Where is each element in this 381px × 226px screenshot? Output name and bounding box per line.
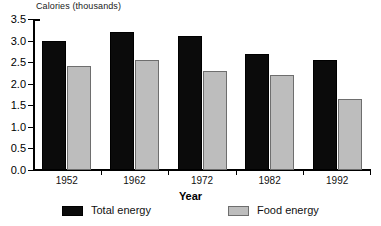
bar-food-energy-1952	[67, 66, 91, 170]
x-axis-label-1992: 1992	[326, 176, 348, 186]
bar-group	[178, 19, 227, 170]
bar-total-energy-1972	[178, 36, 202, 170]
y-axis-tick-mark	[28, 127, 34, 128]
bar-food-energy-1972	[203, 71, 227, 170]
bar-group	[245, 19, 294, 170]
bar-total-energy-1962	[110, 32, 134, 170]
legend-item-total-energy: Total energy	[62, 205, 151, 216]
legend-label-food-energy: Food energy	[257, 205, 319, 216]
legend-swatch-total-energy	[62, 206, 83, 216]
y-axis-tick-label: 3.0	[11, 35, 26, 46]
bar-group	[110, 19, 159, 170]
x-axis-tick-mark	[101, 170, 102, 175]
y-axis-tick-mark	[28, 19, 34, 20]
x-axis-tick-mark	[370, 170, 371, 175]
y-axis-tick-mark	[28, 170, 34, 171]
y-axis-tick-mark	[28, 41, 34, 42]
x-axis-tick-mark	[236, 170, 237, 175]
plot-area: 0.00.51.01.52.02.53.03.5	[33, 19, 371, 170]
x-axis-label-1972: 1972	[191, 176, 213, 186]
y-axis-tick-label: 0.0	[11, 165, 26, 176]
bar-group	[42, 19, 91, 170]
legend-label-total-energy: Total energy	[91, 205, 151, 216]
bar-total-energy-1982	[245, 54, 269, 170]
bar-total-energy-1992	[313, 60, 337, 170]
x-axis-label-1952: 1952	[56, 176, 78, 186]
y-axis-tick-label: 3.5	[11, 14, 26, 25]
y-axis-tick-mark	[28, 84, 34, 85]
y-axis-tick-mark	[28, 148, 34, 149]
y-axis-tick-label: 2.0	[11, 78, 26, 89]
bar-chart-figure: Calories (thousands) 0.00.51.01.52.02.53…	[0, 0, 381, 226]
x-axis-tick-mark	[168, 170, 169, 175]
bar-total-energy-1952	[42, 41, 66, 170]
y-axis-tick-mark	[28, 62, 34, 63]
legend-item-food-energy: Food energy	[228, 205, 319, 216]
y-axis-tick-label: 1.0	[11, 121, 26, 132]
y-axis-tick-mark	[28, 105, 34, 106]
y-axis-tick-label: 0.5	[11, 143, 26, 154]
y-axis-tick-label: 2.5	[11, 57, 26, 68]
x-axis-label-1982: 1982	[258, 176, 280, 186]
x-axis-tick-mark	[303, 170, 304, 175]
y-axis-tick-label: 1.5	[11, 100, 26, 111]
bar-group	[313, 19, 362, 170]
chart-legend: Total energy Food energy	[0, 205, 381, 223]
x-axis-label-1962: 1962	[123, 176, 145, 186]
bar-food-energy-1962	[135, 60, 159, 170]
bar-food-energy-1982	[270, 75, 294, 170]
x-axis-title: Year	[0, 190, 381, 202]
y-axis-title: Calories (thousands)	[36, 1, 121, 11]
legend-swatch-food-energy	[228, 206, 249, 216]
bar-food-energy-1992	[338, 99, 362, 170]
